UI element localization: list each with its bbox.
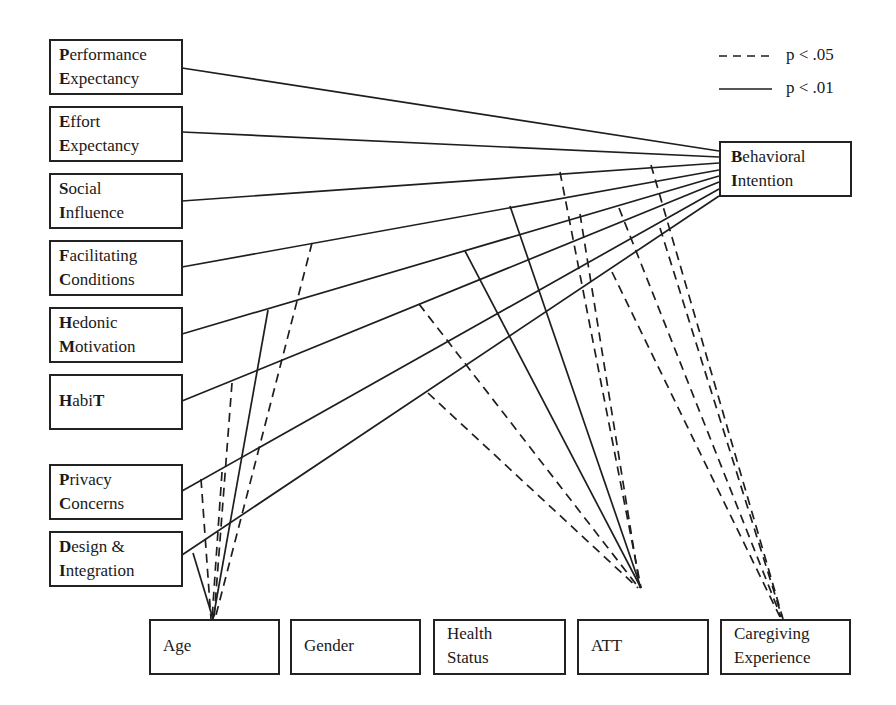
- label: otivation: [75, 337, 135, 356]
- mod-care-dashed-3: [612, 272, 780, 617]
- label: edonic: [72, 313, 117, 332]
- box-effort-expectancy: Effort Expectancy: [49, 106, 183, 162]
- initial: H: [59, 391, 72, 410]
- mod-age-solid-2: [193, 553, 213, 619]
- box-age: Age: [149, 619, 280, 675]
- label: ntention: [738, 171, 794, 190]
- label: Age: [163, 634, 278, 658]
- initial: F: [59, 246, 69, 265]
- box-health-status: Health Status: [433, 619, 566, 675]
- initial: E: [59, 136, 70, 155]
- mod-att-dashed-1: [560, 172, 641, 588]
- box-gender: Gender: [290, 619, 421, 675]
- box-att: ATT: [577, 619, 709, 675]
- initial: C: [59, 270, 71, 289]
- label: ffort: [70, 112, 100, 131]
- initial: C: [59, 494, 71, 513]
- initial: M: [59, 337, 75, 356]
- label: nfluence: [66, 203, 125, 222]
- mod-care-dashed-1: [651, 165, 783, 619]
- label: Experience: [734, 646, 849, 670]
- label: onditions: [71, 270, 134, 289]
- label: xpectancy: [70, 136, 139, 155]
- initial: P: [59, 470, 69, 489]
- mod-att-dashed-2: [419, 304, 639, 588]
- legend-dashed-label: p < .05: [786, 44, 834, 66]
- mod-att-solid-2: [465, 251, 641, 588]
- box-hedonic-motivation: Hedonic Motivation: [49, 307, 183, 363]
- path-di-bi: [182, 196, 719, 555]
- label: erformance: [69, 45, 146, 64]
- label: Health: [447, 622, 564, 646]
- legend-solid-label: p < .01: [786, 77, 834, 99]
- label: oncerns: [71, 494, 124, 513]
- initial: H: [59, 313, 72, 332]
- box-facilitating-conditions: Facilitating Conditions: [49, 240, 183, 296]
- mod-care-dashed-4: [660, 228, 782, 617]
- label: rivacy: [69, 470, 111, 489]
- label: ntegration: [66, 561, 135, 580]
- box-habit: HabiT: [49, 374, 183, 430]
- path-ht-bi: [182, 182, 719, 401]
- label: Status: [447, 646, 564, 670]
- initial: P: [59, 45, 69, 64]
- box-social-influence: Social Influence: [49, 173, 183, 229]
- box-caregiving-experience: Caregiving Experience: [720, 619, 851, 675]
- label: xpectancy: [70, 69, 139, 88]
- initial: E: [59, 112, 70, 131]
- label: abi: [72, 391, 93, 410]
- label: Caregiving: [734, 622, 849, 646]
- final: T: [93, 391, 104, 410]
- initial: B: [731, 147, 742, 166]
- initial: I: [731, 171, 738, 190]
- label: acilitating: [69, 246, 137, 265]
- mod-att-dashed-4: [580, 214, 640, 588]
- path-fc-bi: [182, 170, 719, 267]
- label: Gender: [304, 634, 419, 658]
- box-design-integration: Design & Integration: [49, 531, 183, 587]
- initial: I: [59, 203, 66, 222]
- mod-care-dashed-2: [619, 208, 781, 617]
- box-privacy-concerns: Privacy Concerns: [49, 464, 183, 520]
- initial: I: [59, 561, 66, 580]
- label: ATT: [591, 634, 707, 658]
- label: ocial: [68, 179, 101, 198]
- box-performance-expectancy: Performance Expectancy: [49, 39, 183, 95]
- initial: D: [59, 537, 71, 556]
- mod-att-dashed-3: [428, 393, 638, 588]
- path-ee-bi: [182, 132, 719, 157]
- mod-age-dashed-2: [214, 383, 232, 619]
- path-si-bi: [182, 163, 719, 201]
- box-behavioral-intention: Behavioral Intention: [719, 141, 852, 197]
- label: ehavioral: [742, 147, 805, 166]
- label: esign &: [71, 537, 124, 556]
- path-pe-bi: [182, 68, 719, 151]
- mod-age-solid-1: [213, 310, 268, 619]
- initial: E: [59, 69, 70, 88]
